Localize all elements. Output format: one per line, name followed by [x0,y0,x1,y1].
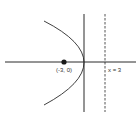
focus-label: (-3, 0) [56,67,72,73]
directrix-label: x = 3 [108,67,122,73]
parabola-diagram: (-3, 0) x = 3 [0,0,140,118]
focus-point [61,59,66,64]
